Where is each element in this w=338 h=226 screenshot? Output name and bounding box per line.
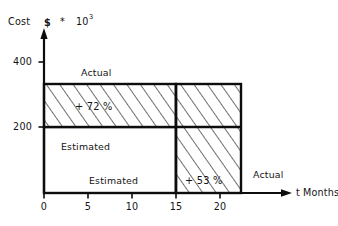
cost-overrun-chart: 400 200 0 5 10 15 20 Cost $ * 10 3 t Mon… [0,0,338,226]
y-axis-title-currency: $ [44,17,51,28]
x-axis-title-t: t [296,187,300,198]
y-tick-label-400: 400 [13,56,32,67]
y-axis-title-cost: Cost [8,16,30,27]
y-axis-arrowhead [40,28,47,39]
pct-72-label: + 72 % [75,101,112,112]
x-tick-label-20: 20 [214,201,227,212]
chart-canvas: 400 200 0 5 10 15 20 Cost $ * 10 3 t Mon… [0,0,338,226]
x-tick-label-0: 0 [41,201,47,212]
y-axis-title-base: 10 [76,16,89,27]
estimated-lower-label: Estimated [89,175,138,186]
x-axis-title-months: Months [303,187,338,198]
actual-top-label: Actual [81,67,112,78]
x-tick-label-15: 15 [170,201,183,212]
estimated-upper-label: Estimated [61,141,110,152]
x-tick-label-10: 10 [126,201,139,212]
x-axis-arrowhead [281,189,292,196]
y-tick-label-200: 200 [13,121,32,132]
y-axis-title-times: * [60,16,65,27]
x-tick-label-5: 5 [85,201,91,212]
y-axis-title-exponent: 3 [89,13,93,21]
pct-53-label: + 53 % [185,175,222,186]
actual-right-label: Actual [253,169,284,180]
